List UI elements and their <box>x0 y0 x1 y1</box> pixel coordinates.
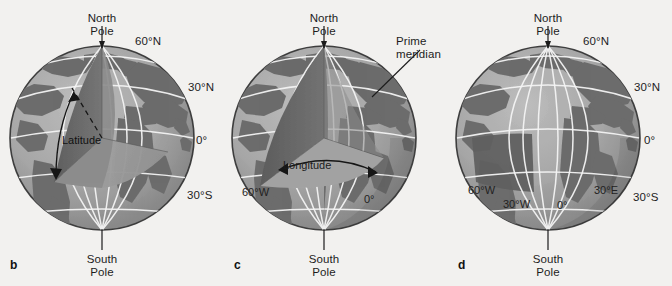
latitude-callout-label: Latitude <box>62 134 101 146</box>
prime-meridian-label: Prime meridian <box>396 35 441 60</box>
panel-letter-d: d <box>458 258 465 272</box>
lon-tick-60w: 60°W <box>468 184 495 196</box>
panel-c: North Pole South Pole Prime meridian Lon… <box>224 0 448 286</box>
south-pole-label: South Pole <box>508 253 588 278</box>
lat-tick-60n: 60°N <box>135 35 161 48</box>
north-pole-label: North Pole <box>62 12 142 37</box>
lat-tick-60n: 60°N <box>583 35 609 48</box>
panel-letter-b: b <box>10 258 17 272</box>
panel-d: North Pole South Pole 60°N 30°N 0° 30°S … <box>448 0 672 286</box>
lon-tick-0: 0° <box>364 193 375 205</box>
globe-b-graphic <box>0 0 224 286</box>
lon-tick-60w: 60°W <box>242 186 269 198</box>
panel-letter-c: c <box>234 258 241 272</box>
lon-tick-30w: 30°W <box>503 198 530 210</box>
panel-b: North Pole South Pole 60°N 30°N 0° 30°S … <box>0 0 224 286</box>
lat-tick-30n: 30°N <box>634 81 660 94</box>
lat-tick-0: 0° <box>644 134 655 147</box>
lat-tick-30n: 30°N <box>188 81 214 94</box>
south-pole-label: South Pole <box>284 253 364 278</box>
longitude-callout-label: Longitude <box>283 159 331 171</box>
lon-tick-30e: 30°E <box>594 184 618 196</box>
lat-tick-30s: 30°S <box>187 189 212 202</box>
globe-figure: North Pole South Pole 60°N 30°N 0° 30°S … <box>0 0 672 286</box>
lat-tick-30s: 30°S <box>633 191 658 204</box>
north-pole-label: North Pole <box>508 12 588 37</box>
lon-tick-0: 0° <box>557 199 568 211</box>
lat-tick-0: 0° <box>196 134 207 147</box>
south-pole-label: South Pole <box>62 253 142 278</box>
globe-d-graphic <box>448 0 672 286</box>
north-pole-label: North Pole <box>284 12 364 37</box>
